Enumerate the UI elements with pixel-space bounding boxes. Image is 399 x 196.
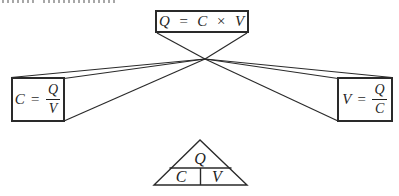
- triangle-label-c: C: [176, 168, 187, 185]
- formula-lhs: V: [342, 92, 351, 107]
- formula-lhs: C: [15, 92, 25, 107]
- formula-text: C = Q V: [15, 83, 61, 116]
- equals-sign: =: [30, 92, 40, 107]
- ray-line: [11, 59, 205, 78]
- formula-text: V = Q C: [342, 83, 387, 116]
- fraction: Q C: [372, 83, 388, 116]
- fraction-denominator: C: [372, 99, 387, 116]
- formula-triangle-diagram: Q C V Q = C × V C = Q V V = Q C: [0, 0, 399, 196]
- triangle-label-v: V: [212, 168, 224, 185]
- triangle-label-q: Q: [194, 150, 206, 167]
- fraction: Q V: [45, 83, 61, 116]
- ray-line: [157, 33, 205, 59]
- ray-line: [205, 33, 247, 59]
- formula-box-left: C = Q V: [11, 77, 65, 122]
- formula-box-right: V = Q C: [337, 77, 393, 122]
- ray-line: [205, 59, 392, 78]
- fraction-denominator: V: [46, 99, 61, 116]
- fraction-numerator: Q: [45, 83, 61, 99]
- formula-box-top: Q = C × V: [155, 10, 249, 33]
- equals-sign: =: [356, 92, 366, 107]
- formula-text: Q = C × V: [159, 14, 245, 29]
- connector-rays: [11, 33, 392, 121]
- memory-triangle: Q C V: [154, 140, 247, 185]
- fraction-numerator: Q: [372, 83, 388, 99]
